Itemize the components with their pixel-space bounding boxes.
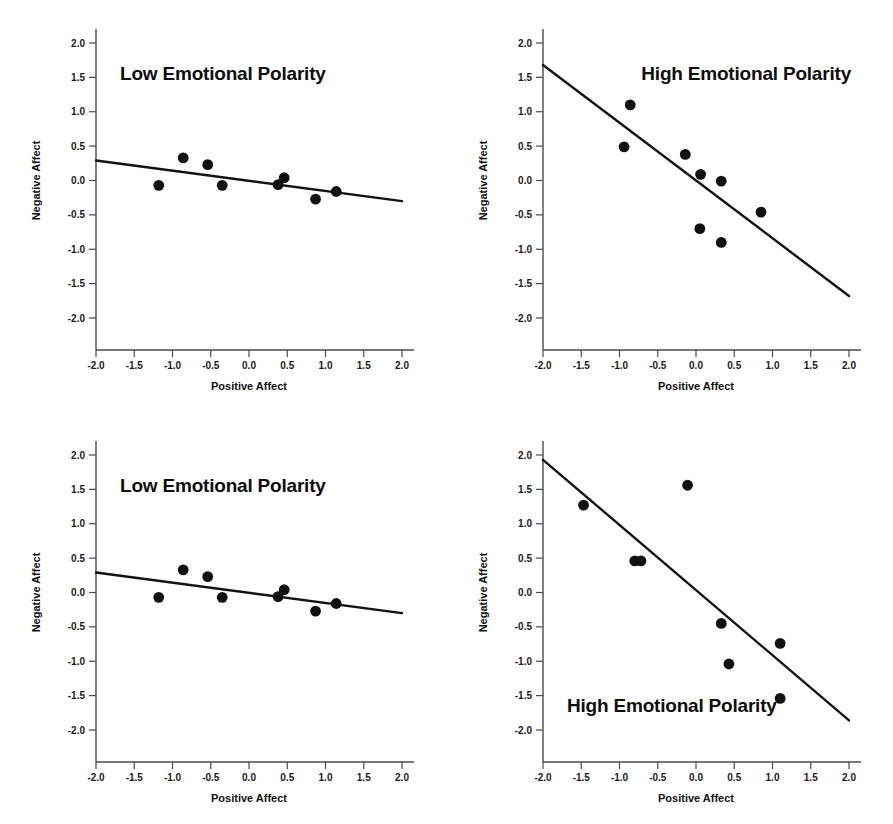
data-point bbox=[694, 223, 705, 234]
x-tick-label: 1.0 bbox=[766, 360, 780, 371]
y-tick-label: 1.0 bbox=[518, 518, 532, 529]
y-axis-title: Negative Affect bbox=[477, 140, 489, 220]
regression-line bbox=[96, 573, 402, 614]
y-axis-title-group: Negative Affect bbox=[30, 140, 42, 220]
x-tick-label: 1.5 bbox=[804, 772, 818, 783]
y-tick-label: -0.5 bbox=[515, 209, 533, 220]
x-tick-label: -0.5 bbox=[649, 772, 667, 783]
data-point bbox=[310, 606, 321, 617]
x-axis-title: Positive Affect bbox=[211, 792, 287, 804]
x-tick-label: 0.0 bbox=[242, 360, 256, 371]
data-point bbox=[217, 592, 228, 603]
chart-canvas-top-left: 2.01.51.00.50.0-0.5-1.0-1.5-2.0-2.0-1.5-… bbox=[0, 0, 446, 412]
y-axis-title-group: Negative Affect bbox=[477, 140, 489, 220]
x-tick-label: 1.0 bbox=[319, 772, 333, 783]
y-tick-label: 1.0 bbox=[518, 106, 532, 117]
x-tick-label: 1.5 bbox=[357, 772, 371, 783]
x-tick-label: -1.0 bbox=[611, 772, 629, 783]
y-tick-label: 0.0 bbox=[71, 175, 85, 186]
y-tick-label: 2.0 bbox=[71, 450, 85, 461]
chart-panel-bottom-right: 2.01.51.00.50.0-0.5-1.0-1.5-2.0-2.0-1.5-… bbox=[447, 412, 893, 824]
y-tick-label: -1.0 bbox=[68, 656, 86, 667]
x-tick-label: 0.5 bbox=[280, 772, 294, 783]
x-tick-label: -2.0 bbox=[534, 772, 552, 783]
data-point bbox=[680, 149, 691, 160]
y-tick-label: -2.0 bbox=[68, 313, 86, 324]
y-tick-label: -2.0 bbox=[515, 725, 533, 736]
data-point bbox=[331, 598, 342, 609]
x-axis-title: Positive Affect bbox=[658, 792, 734, 804]
y-tick-label: -1.0 bbox=[515, 656, 533, 667]
y-tick-label: -2.0 bbox=[68, 725, 86, 736]
y-tick-label: 0.5 bbox=[71, 553, 85, 564]
y-tick-label: 0.0 bbox=[518, 587, 532, 598]
x-tick-label: -1.5 bbox=[573, 772, 591, 783]
x-tick-label: -0.5 bbox=[202, 772, 220, 783]
x-tick-label: 0.5 bbox=[727, 772, 741, 783]
y-tick-label: 1.5 bbox=[518, 484, 532, 495]
panel-title: Low Emotional Polarity bbox=[120, 475, 326, 496]
x-tick-label: -1.5 bbox=[126, 772, 144, 783]
panel-title: High Emotional Polarity bbox=[567, 695, 777, 716]
y-tick-label: -1.0 bbox=[68, 244, 86, 255]
data-point bbox=[310, 194, 321, 205]
x-tick-label: 1.0 bbox=[766, 772, 780, 783]
data-point bbox=[578, 500, 589, 511]
x-axis-title: Positive Affect bbox=[211, 380, 287, 392]
x-tick-label: 0.0 bbox=[689, 772, 703, 783]
chart-canvas-bottom-left: 2.01.51.00.50.0-0.5-1.0-1.5-2.0-2.0-1.5-… bbox=[0, 412, 446, 824]
regression-line bbox=[543, 460, 849, 721]
x-tick-label: -2.0 bbox=[534, 360, 552, 371]
x-tick-label: 0.0 bbox=[242, 772, 256, 783]
data-point bbox=[625, 99, 636, 110]
y-axis-title-group: Negative Affect bbox=[477, 552, 489, 632]
panel-title: Low Emotional Polarity bbox=[120, 63, 326, 84]
x-tick-label: -0.5 bbox=[202, 360, 220, 371]
data-point bbox=[153, 592, 164, 603]
y-tick-label: -1.5 bbox=[515, 690, 533, 701]
x-tick-label: -1.5 bbox=[573, 360, 591, 371]
y-tick-label: 1.0 bbox=[71, 518, 85, 529]
x-tick-label: -2.0 bbox=[87, 772, 105, 783]
x-tick-label: 2.0 bbox=[395, 360, 409, 371]
x-tick-label: -1.0 bbox=[164, 772, 182, 783]
x-tick-label: -1.5 bbox=[126, 360, 144, 371]
data-point bbox=[716, 176, 727, 187]
data-point bbox=[756, 207, 767, 218]
y-tick-label: 0.5 bbox=[518, 141, 532, 152]
y-axis-title: Negative Affect bbox=[477, 552, 489, 632]
x-tick-label: 0.0 bbox=[689, 360, 703, 371]
data-point bbox=[695, 169, 706, 180]
y-tick-label: 2.0 bbox=[518, 450, 532, 461]
data-point bbox=[775, 638, 786, 649]
data-point bbox=[716, 618, 727, 629]
y-tick-label: -0.5 bbox=[68, 209, 86, 220]
x-tick-label: -1.0 bbox=[611, 360, 629, 371]
y-tick-label: -0.5 bbox=[68, 621, 86, 632]
chart-panel-bottom-left: 2.01.51.00.50.0-0.5-1.0-1.5-2.0-2.0-1.5-… bbox=[0, 412, 446, 824]
y-tick-label: -1.5 bbox=[68, 690, 86, 701]
y-tick-label: -2.0 bbox=[515, 313, 533, 324]
y-tick-label: 2.0 bbox=[518, 38, 532, 49]
data-point bbox=[331, 186, 342, 197]
x-tick-label: 2.0 bbox=[842, 772, 856, 783]
regression-line bbox=[543, 65, 849, 296]
y-tick-label: 1.5 bbox=[71, 72, 85, 83]
y-axis-title: Negative Affect bbox=[30, 140, 42, 220]
regression-line bbox=[96, 161, 402, 202]
x-tick-label: 0.5 bbox=[280, 360, 294, 371]
x-tick-label: 1.0 bbox=[319, 360, 333, 371]
x-tick-label: 2.0 bbox=[842, 360, 856, 371]
y-tick-label: -1.5 bbox=[515, 278, 533, 289]
data-point bbox=[279, 172, 290, 183]
y-tick-label: -1.0 bbox=[515, 244, 533, 255]
data-point bbox=[723, 659, 734, 670]
data-point bbox=[178, 152, 189, 163]
y-tick-label: 0.0 bbox=[71, 587, 85, 598]
data-point bbox=[636, 555, 647, 566]
x-axis-title: Positive Affect bbox=[658, 380, 734, 392]
x-tick-label: 1.5 bbox=[357, 360, 371, 371]
data-point bbox=[716, 237, 727, 248]
y-tick-label: 1.5 bbox=[71, 484, 85, 495]
data-point bbox=[279, 584, 290, 595]
